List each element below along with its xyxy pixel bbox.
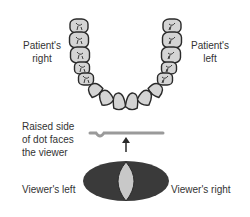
raised-side-line-3: the viewer — [22, 146, 74, 159]
molar-tooth — [162, 47, 181, 63]
incisor-tooth — [125, 92, 139, 110]
patients-right-label: Patient's right — [18, 39, 66, 65]
patients-right-line-2: right — [18, 52, 66, 65]
viewers-left-label: Viewer's left — [22, 183, 75, 196]
molar-tooth — [70, 19, 88, 33]
viewers-right-label: Viewer's right — [171, 183, 231, 196]
raised-dot-icon — [83, 161, 169, 201]
premolar-tooth — [162, 62, 177, 74]
raised-side-line-1: Raised side — [22, 120, 74, 133]
premolar-tooth — [158, 73, 173, 85]
molar-tooth — [163, 19, 181, 33]
film-bar — [90, 133, 163, 136]
premolar-tooth — [79, 73, 94, 85]
premolar-tooth — [75, 62, 90, 74]
raised-side-label: Raised side of dot faces the viewer — [22, 120, 74, 159]
molar-tooth — [71, 47, 90, 63]
raised-side-line-2: of dot faces — [22, 133, 74, 146]
patients-left-line-1: Patient's — [186, 39, 234, 52]
incisor-tooth — [112, 92, 126, 110]
patients-left-line-2: left — [186, 52, 234, 65]
molar-tooth — [163, 32, 182, 48]
arrow-up-icon — [122, 137, 130, 152]
dental-arch — [70, 19, 182, 110]
molar-tooth — [70, 32, 89, 48]
patients-right-line-1: Patient's — [18, 39, 66, 52]
patients-left-label: Patient's left — [186, 39, 234, 65]
